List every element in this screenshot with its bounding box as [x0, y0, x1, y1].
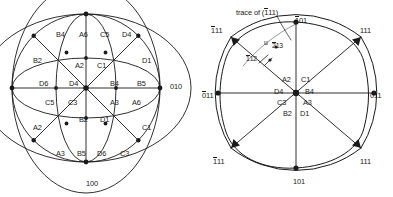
center-label: D1 — [300, 110, 309, 117]
trace-annotation-overlined-index: 1 — [264, 9, 268, 16]
plain-digits: 13 — [276, 42, 283, 49]
region-label: D6 — [39, 80, 48, 87]
pole-label-right: 011 — [370, 92, 381, 99]
region-label: A2 — [33, 124, 42, 131]
overline-digit: 1 — [246, 56, 250, 63]
pole-label-left: 011 — [202, 92, 214, 99]
minor-label-112: 112 — [246, 56, 257, 63]
region-label: A6 — [79, 31, 88, 38]
region-label: A6 — [132, 99, 141, 106]
center-label: D4 — [274, 88, 283, 95]
region-label: C5 — [100, 31, 109, 38]
center-label: C3 — [277, 99, 286, 106]
pole-label-bottom: 101 — [293, 178, 305, 185]
plain-digits: 01 — [299, 16, 307, 25]
region-label: D6 — [97, 150, 106, 157]
overline-digit: 1 — [211, 27, 215, 34]
pole-label-top-right: 111 — [360, 27, 371, 34]
minor-label-u: u — [264, 40, 268, 47]
left-great-circle-arcs — [0, 0, 191, 193]
plain-digits: 11 — [206, 91, 213, 100]
region-label: B2 — [79, 116, 88, 123]
region-label: D1 — [100, 116, 109, 123]
pole-label-bottom-right: 111 — [360, 158, 371, 165]
overline-digit: 0 — [202, 92, 206, 99]
center-label: A2 — [282, 76, 291, 83]
trace-annotation: trace of (111) — [236, 9, 278, 16]
center-label: B4 — [305, 88, 314, 95]
minor-label-213: 213 — [272, 43, 283, 50]
overline-digit: 1 — [213, 158, 217, 165]
region-label: C1 — [97, 62, 106, 69]
region-label: A2 — [75, 62, 84, 69]
region-label: D4 — [122, 31, 131, 38]
center-label: A3 — [303, 99, 312, 106]
region-label: B4 — [110, 80, 119, 87]
region-label: B5 — [137, 80, 146, 87]
region-label: D1 — [142, 57, 151, 64]
plain-digits: 12 — [250, 55, 257, 62]
pole-label-100: 100 — [86, 180, 98, 187]
region-label: B5 — [77, 150, 86, 157]
pole-label-bottom-left: 111 — [213, 158, 225, 165]
overline-digit: 1 — [295, 17, 299, 24]
crystallography-figure: 010 100 B4 A6 C5 D4 B2 A2 C1 D1 D6 D4 B4… — [0, 0, 393, 197]
trace-annotation-suffix: 11) — [268, 8, 278, 17]
region-label: B2 — [33, 57, 42, 64]
region-label: A3 — [56, 150, 65, 157]
center-label: C1 — [301, 76, 310, 83]
plain-digits: 11 — [215, 26, 222, 35]
overline-digit: 2 — [272, 43, 276, 50]
region-label: A3 — [110, 99, 119, 106]
pole-label-top: 101 — [295, 17, 307, 24]
region-label: D4 — [69, 80, 78, 87]
region-label: C1 — [142, 124, 151, 131]
region-label: B4 — [56, 31, 65, 38]
plain-digits: 11 — [217, 157, 224, 166]
region-label: C5 — [45, 99, 54, 106]
region-label: C3 — [120, 150, 129, 157]
pole-label-010: 010 — [170, 83, 182, 90]
trace-annotation-prefix: trace of ( — [236, 8, 264, 17]
center-label: B2 — [283, 110, 292, 117]
pole-label-top-left: 111 — [211, 27, 223, 34]
region-label: C3 — [68, 99, 77, 106]
